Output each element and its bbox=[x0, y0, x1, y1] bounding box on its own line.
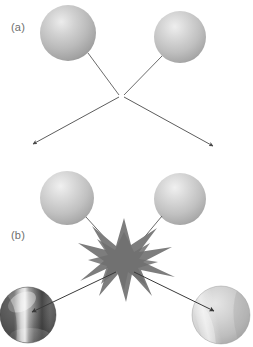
panel-b-incoming-sphere-right bbox=[154, 173, 206, 225]
figure-root: (a) (b) bbox=[0, 0, 253, 347]
panel-b-product-sphere-light bbox=[188, 284, 252, 347]
panel-b-outgoing-arrow-right bbox=[134, 272, 214, 311]
collision-burst bbox=[78, 218, 175, 302]
panel-b-incoming-sphere-left bbox=[40, 171, 94, 225]
panel-b: (b) bbox=[0, 171, 252, 347]
panel-a-outgoing-arrow-left bbox=[33, 97, 119, 144]
panel-b-product-sphere-dark bbox=[0, 287, 56, 344]
figure-canvas: (a) (b) bbox=[0, 0, 253, 347]
panel-a-incoming-sphere-left bbox=[40, 5, 96, 61]
panel-a-label: (a) bbox=[11, 21, 25, 33]
panel-a-incoming-path-right bbox=[124, 56, 162, 95]
panel-a: (a) bbox=[11, 5, 213, 146]
panel-a-incoming-sphere-right bbox=[154, 11, 206, 63]
panel-b-label: (b) bbox=[11, 229, 25, 241]
panel-a-outgoing-arrow-right bbox=[124, 97, 213, 146]
panel-a-incoming-path-left bbox=[88, 53, 119, 95]
